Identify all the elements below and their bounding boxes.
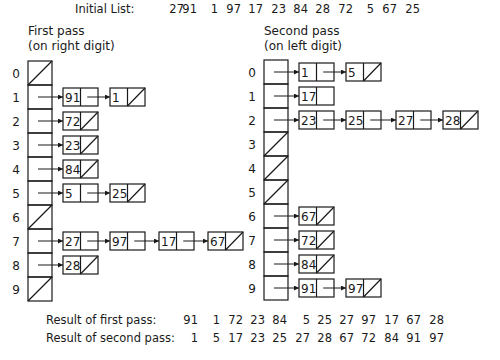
bucket-index-label: 1	[12, 91, 20, 105]
list-value: 25	[308, 313, 332, 327]
list-value: 1	[174, 331, 198, 345]
list-value: 25	[263, 331, 287, 345]
null-pointer-slash-icon	[317, 207, 335, 225]
null-pointer-slash-icon	[317, 231, 335, 249]
bucket-index-label: 4	[12, 163, 20, 177]
list-node: 97	[110, 232, 159, 250]
null-pointer-slash-icon	[81, 256, 99, 274]
node-value: 97	[112, 235, 127, 249]
list-node: 97	[346, 279, 381, 297]
bucket-index-label: 3	[12, 139, 20, 153]
node-value: 84	[301, 258, 316, 272]
bucket-2: 272	[12, 109, 98, 133]
node-value: 27	[398, 114, 413, 128]
node-value: 1	[301, 66, 309, 80]
node-value: 28	[65, 259, 80, 273]
null-pointer-slash-icon	[81, 112, 99, 130]
list-node: 17	[299, 87, 334, 105]
node-value: 91	[301, 282, 316, 296]
list-value: 17	[219, 331, 243, 345]
node-value: 84	[65, 163, 80, 177]
list-value: 72	[219, 313, 243, 327]
list-node: 91	[299, 279, 346, 297]
bucket-index-label: 6	[12, 211, 20, 225]
bucket-index-label: 2	[248, 114, 256, 128]
list-node: 25	[110, 184, 145, 202]
list-value: 17	[375, 313, 399, 327]
bucket-index-label: 0	[12, 67, 20, 81]
null-pointer-slash-icon	[264, 180, 288, 204]
bucket-6: 667	[248, 204, 334, 228]
null-pointer-slash-icon	[461, 111, 479, 129]
bucket-4: 484	[12, 157, 98, 181]
list-node: 1	[299, 63, 346, 81]
bucket-8: 884	[248, 252, 334, 276]
node-value: 17	[161, 235, 176, 249]
node-value: 91	[65, 91, 80, 105]
bucket-9: 9	[12, 277, 52, 301]
bucket-index-label: 4	[248, 162, 256, 176]
first-result-label: Result of first pass:	[46, 313, 156, 327]
list-node: 23	[299, 111, 346, 129]
list-value: 84	[263, 313, 287, 327]
list-node: 91	[63, 88, 110, 106]
bucket-index-label: 5	[248, 186, 256, 200]
bucket-1: 117	[248, 84, 334, 108]
list-value: 91	[174, 313, 198, 327]
node-value: 25	[348, 114, 363, 128]
bucket-index-label: 9	[248, 282, 256, 296]
list-value: 28	[308, 331, 332, 345]
bucket-index-label: 0	[248, 66, 256, 80]
list-node: 84	[63, 160, 98, 178]
list-value: 67	[330, 331, 354, 345]
list-node: 72	[63, 112, 98, 130]
bucket-index-label: 8	[12, 259, 20, 273]
list-node: 28	[443, 111, 478, 129]
node-value: 72	[65, 115, 80, 129]
null-pointer-slash-icon	[364, 279, 382, 297]
bucket-0: 0	[12, 61, 52, 85]
list-value: 5	[286, 313, 310, 327]
bucket-9: 99197	[248, 276, 381, 300]
node-value: 27	[65, 235, 80, 249]
node-value: 17	[301, 90, 316, 104]
bucket-0: 015	[248, 60, 381, 84]
node-value: 1	[112, 91, 120, 105]
list-node: 67	[299, 207, 334, 225]
bucket-6: 6	[12, 205, 52, 229]
list-node: 28	[63, 256, 98, 274]
list-node: 5	[346, 63, 381, 81]
null-pointer-slash-icon	[28, 277, 52, 301]
bucket-index-label: 7	[12, 235, 20, 249]
null-pointer-slash-icon	[28, 61, 52, 85]
bucket-2: 223252728	[248, 108, 478, 132]
null-pointer-slash-icon	[128, 88, 146, 106]
bucket-index-label: 5	[12, 187, 20, 201]
bucket-index-label: 1	[248, 90, 256, 104]
node-value: 23	[65, 139, 80, 153]
first-pass-bucket-array: 01911272323484552567279717678289	[12, 61, 243, 301]
list-value: 72	[352, 331, 376, 345]
node-value: 5	[348, 66, 356, 80]
list-value: 27	[286, 331, 310, 345]
bucket-7: 727971767	[12, 229, 243, 253]
bucket-index-label: 6	[248, 210, 256, 224]
bucket-index-label: 3	[248, 138, 256, 152]
null-pointer-slash-icon	[81, 160, 99, 178]
bucket-index-label: 9	[12, 283, 20, 297]
list-value: 84	[375, 331, 399, 345]
node-value: 67	[301, 210, 316, 224]
list-value: 1	[196, 313, 220, 327]
bucket-index-label: 8	[248, 258, 256, 272]
list-node: 27	[396, 111, 443, 129]
list-value: 97	[420, 331, 444, 345]
list-node: 67	[208, 232, 243, 250]
node-value: 72	[301, 234, 316, 248]
list-value: 23	[241, 313, 265, 327]
node-value: 5	[65, 187, 73, 201]
list-value: 28	[420, 313, 444, 327]
node-value: 97	[348, 282, 363, 296]
bucket-5: 5	[248, 180, 288, 204]
list-node: 72	[299, 231, 334, 249]
bucket-index-label: 7	[248, 234, 256, 248]
